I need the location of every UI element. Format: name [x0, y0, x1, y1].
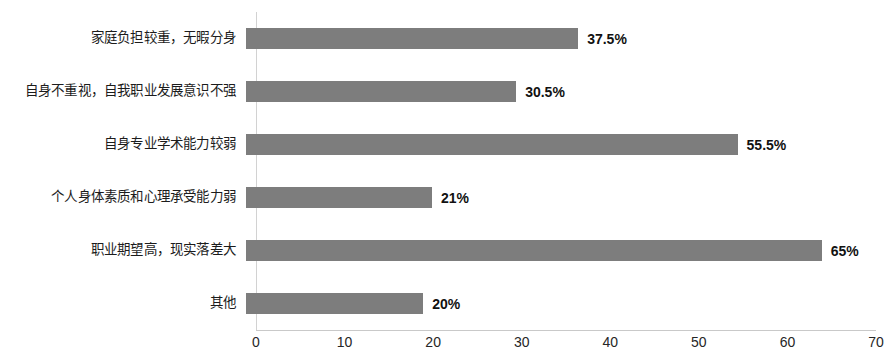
category-label: 个人身体素质和心理承受能力弱	[0, 189, 246, 205]
bar	[246, 28, 578, 49]
x-axis-tick-labels: 010203040506070	[0, 334, 892, 359]
bar-value-label: 37.5%	[587, 31, 627, 47]
bar-value-label: 30.5%	[525, 84, 565, 100]
category-label: 家庭负担较重，无暇分身	[0, 30, 246, 46]
bar-container: 20%	[246, 277, 892, 330]
table-row: 自身不重视，自我职业发展意识不强30.5%	[0, 65, 892, 118]
bar	[246, 293, 423, 314]
x-axis-tick-label: 0	[252, 334, 260, 350]
bar-chart: 家庭负担较重，无暇分身37.5%自身不重视，自我职业发展意识不强30.5%自身专…	[0, 0, 892, 359]
bar-container: 65%	[246, 224, 892, 277]
bar-rows: 家庭负担较重，无暇分身37.5%自身不重视，自我职业发展意识不强30.5%自身专…	[0, 0, 892, 330]
bar-container: 37.5%	[246, 12, 892, 65]
category-label: 其他	[0, 295, 246, 311]
x-axis-tick-label: 30	[514, 334, 530, 350]
table-row: 个人身体素质和心理承受能力弱21%	[0, 171, 892, 224]
x-axis-tick-label: 10	[337, 334, 353, 350]
bar-container: 21%	[246, 171, 892, 224]
bar-container: 55.5%	[246, 118, 892, 171]
bar-value-label: 55.5%	[747, 137, 787, 153]
bar-container: 30.5%	[246, 65, 892, 118]
x-axis-line	[256, 330, 876, 331]
x-axis-tick-label: 70	[868, 334, 884, 350]
bar	[246, 134, 738, 155]
x-axis-tick-label: 60	[780, 334, 796, 350]
bar-value-label: 21%	[441, 190, 469, 206]
bar-value-label: 65%	[831, 243, 859, 259]
bar-value-label: 20%	[432, 296, 460, 312]
x-axis-tick-label: 40	[602, 334, 618, 350]
category-label: 自身不重视，自我职业发展意识不强	[0, 83, 246, 99]
table-row: 家庭负担较重，无暇分身37.5%	[0, 12, 892, 65]
category-label: 自身专业学术能力较弱	[0, 136, 246, 152]
bar	[246, 81, 516, 102]
x-axis-tick-label: 20	[425, 334, 441, 350]
table-row: 其他20%	[0, 277, 892, 330]
x-axis-tick-label: 50	[691, 334, 707, 350]
bar	[246, 240, 822, 261]
table-row: 自身专业学术能力较弱55.5%	[0, 118, 892, 171]
category-label: 职业期望高，现实落差大	[0, 242, 246, 258]
table-row: 职业期望高，现实落差大65%	[0, 224, 892, 277]
bar	[246, 187, 432, 208]
